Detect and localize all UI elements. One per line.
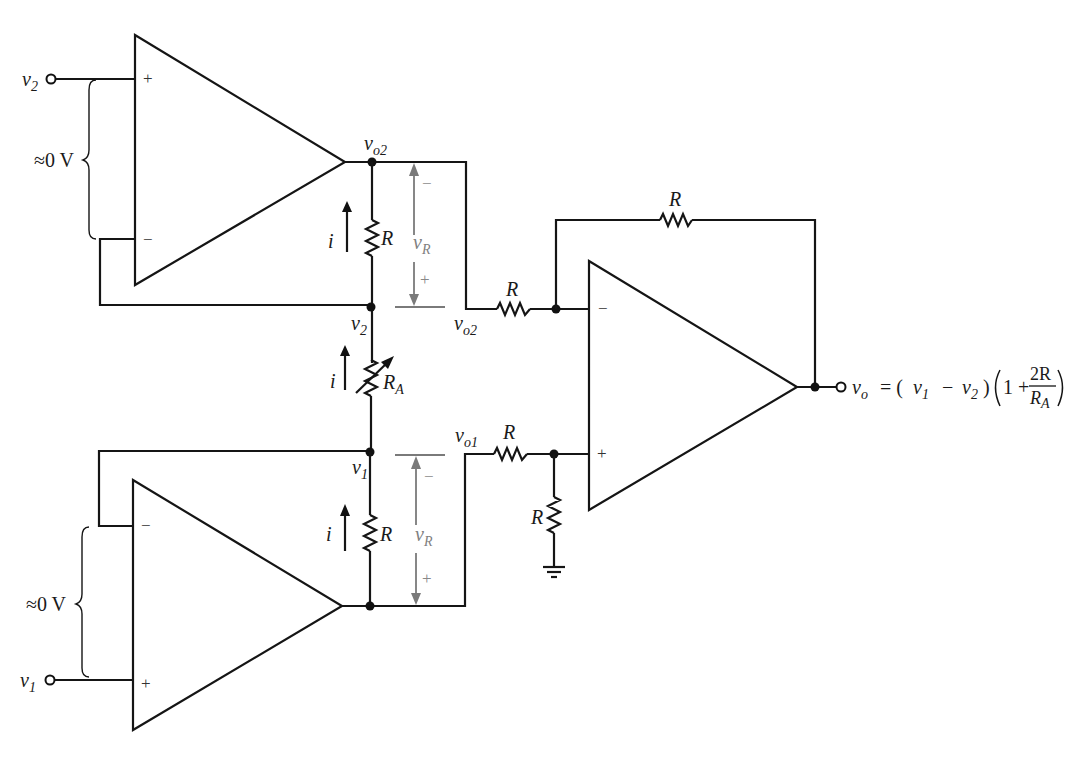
difference-opamp: − + <box>589 261 797 510</box>
equation-numerator: 2R <box>1030 364 1051 384</box>
vo1-label: vo1 <box>455 424 478 450</box>
top-input-diff-label: ≈0 V <box>34 149 75 171</box>
top-current-label: i <box>328 230 334 252</box>
bottom-feedback-wire <box>99 451 370 526</box>
v2-node-label: v2 <box>351 312 367 338</box>
r-feedback-resistor <box>660 214 692 226</box>
v2-node <box>367 303 376 312</box>
bottom-brace <box>76 527 89 677</box>
output-terminal[interactable] <box>837 383 846 392</box>
bottom-vr-arrowhead-down <box>411 593 421 605</box>
r-bottom-resistor <box>364 515 376 551</box>
equation-lhs: vo <box>852 376 868 402</box>
r-in-plus-resistor <box>494 448 527 460</box>
difference-opamp-minus: − <box>598 299 608 318</box>
top-opamp-triangle <box>135 35 345 285</box>
r-in-plus-label: R <box>502 421 515 443</box>
bottom-opamp-triangle <box>133 480 342 730</box>
bottom-opamp-plus: + <box>141 674 151 693</box>
bottom-current-arrowhead <box>340 504 350 516</box>
equation-one-plus: 1 + <box>1003 376 1029 398</box>
equation-denominator: RA <box>1029 388 1050 411</box>
r-feedback-label: R <box>668 188 681 210</box>
vo2-top-label: vo2 <box>364 132 387 158</box>
bottom-opamp: − + <box>133 480 342 730</box>
middle-current-arrowhead <box>340 345 350 356</box>
top-vr-minus: − <box>422 174 432 193</box>
bottom-vr-minus: − <box>424 467 434 486</box>
middle-current-label: i <box>330 370 336 392</box>
top-vr-arrowhead-down <box>409 294 419 306</box>
vo2-mid-label: vo2 <box>454 312 477 338</box>
top-brace <box>83 80 96 239</box>
circuit-diagram: + − v2 ≈0 V vo2 R i v2 − + vR RA i vo2 R <box>0 0 1069 760</box>
r-top-resistor <box>366 220 378 256</box>
top-vr-plus: + <box>420 270 430 289</box>
top-opamp: + − <box>135 35 345 285</box>
r-ground-resistor <box>548 497 560 533</box>
v1-input-label: v1 <box>20 669 36 695</box>
equation-close-paren: ) <box>983 376 990 399</box>
r-bottom-label: R <box>379 523 392 545</box>
bottom-vr-plus: + <box>422 569 432 588</box>
top-vr-label: vR <box>413 231 431 257</box>
output-equation: vo = ( v1 − v2 ) 1 + 2R RA <box>852 364 1063 411</box>
v1-node-label: v1 <box>352 456 368 482</box>
v1-input-terminal[interactable] <box>46 676 55 685</box>
equation-v1: v1 <box>913 376 929 402</box>
v2-input-label: v2 <box>22 68 38 94</box>
output-node <box>811 383 820 392</box>
equation-big-paren-close <box>1058 370 1063 406</box>
top-current-arrowhead <box>342 201 352 212</box>
bottom-input-diff-label: ≈0 V <box>26 593 67 615</box>
top-opamp-plus: + <box>143 69 153 88</box>
difference-opamp-plus: + <box>597 444 607 463</box>
r-in-minus-resistor <box>497 303 530 315</box>
feedback-wire-right <box>692 220 815 387</box>
top-opamp-minus: − <box>143 230 153 249</box>
r-top-label: R <box>380 227 393 249</box>
top-vr-arrowhead-up <box>409 163 419 176</box>
difference-opamp-triangle <box>589 261 797 510</box>
bottom-opamp-minus: − <box>141 516 151 535</box>
r-in-minus-label: R <box>505 278 518 300</box>
bottom-vr-arrowhead-up <box>411 456 421 469</box>
v2-input-terminal[interactable] <box>47 75 56 84</box>
ground-icon <box>543 567 565 577</box>
vo1-node <box>366 602 375 611</box>
equation-big-paren-open <box>996 370 1001 406</box>
equation-v2: v2 <box>962 376 978 402</box>
ra-label: RA <box>382 371 404 397</box>
bottom-current-label: i <box>326 523 332 545</box>
bottom-vr-label: vR <box>415 523 433 549</box>
equation-eq: = ( <box>880 376 903 399</box>
equation-minus: − <box>942 376 953 398</box>
r-ground-label: R <box>530 506 543 528</box>
